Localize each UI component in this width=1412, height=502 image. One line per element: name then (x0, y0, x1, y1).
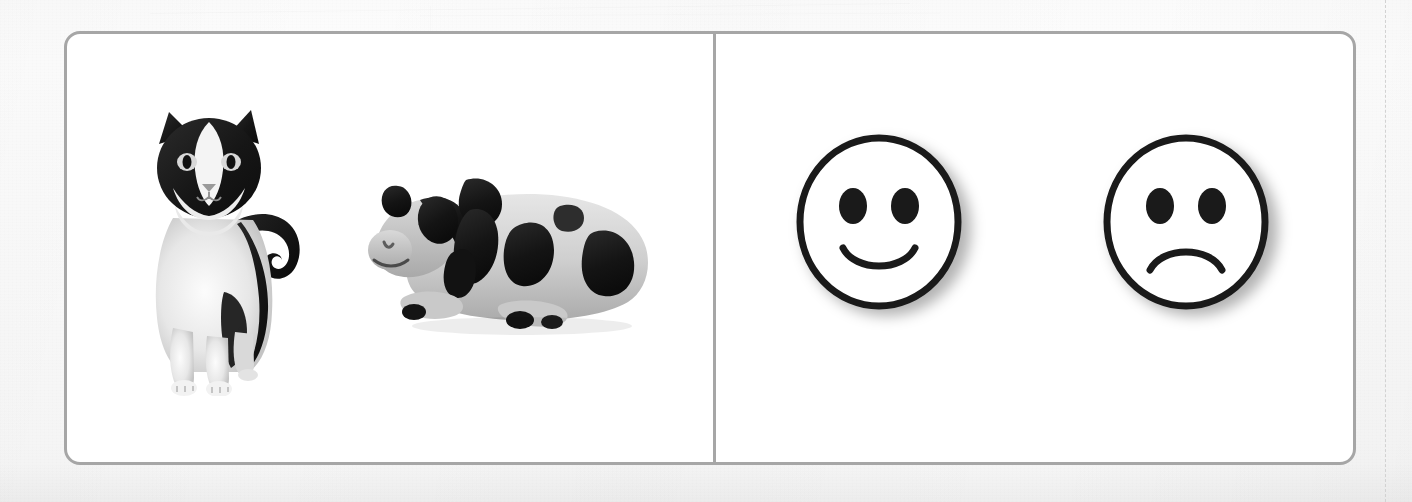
cow-ground-shadow (412, 317, 632, 335)
happy-face-outline (800, 138, 958, 306)
sad-face-illustration (1100, 130, 1276, 316)
cat-image[interactable] (129, 96, 307, 396)
stimulus-panel-content (67, 34, 710, 462)
cut-guide-dashed-line (1385, 0, 1386, 502)
cow-image[interactable] (362, 146, 662, 342)
sad-face-symbol[interactable] (1100, 130, 1276, 316)
cow-back-patch (553, 205, 584, 232)
happy-face-illustration (793, 130, 969, 316)
response-panel[interactable] (710, 34, 1353, 462)
cat-illustration (129, 96, 307, 396)
picture-choice-card (64, 31, 1356, 465)
happy-face-eye-right (891, 188, 919, 224)
happy-face-symbol[interactable] (793, 130, 969, 316)
paper-bottom-shading (0, 462, 1412, 502)
cat-pupil-right (227, 155, 236, 169)
scan-streak (420, 12, 940, 16)
cow-front-hoof (402, 304, 426, 320)
scan-streak (430, 6, 431, 32)
cow-muzzle (368, 230, 412, 270)
cow-illustration (362, 146, 662, 342)
cow-ear-left (382, 186, 412, 218)
sad-face-eye-left (1146, 188, 1174, 224)
cat-pupil-left (183, 155, 192, 169)
happy-face-eye-left (839, 188, 867, 224)
sad-face-eye-right (1198, 188, 1226, 224)
cat-paw (238, 369, 258, 381)
sad-face-outline (1107, 138, 1265, 306)
scan-streak (150, 3, 910, 14)
response-panel-content (710, 34, 1353, 462)
stimulus-panel[interactable] (67, 34, 710, 462)
